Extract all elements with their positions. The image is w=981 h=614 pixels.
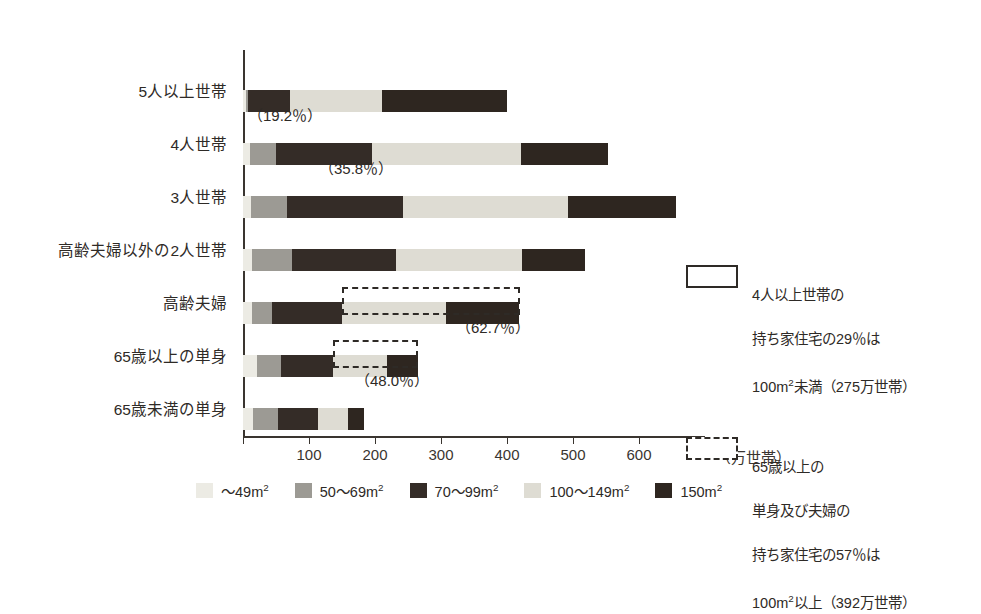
callout-4plus-line3: 100m2未満（275万世帯） <box>752 372 976 398</box>
bar-segment <box>382 90 507 112</box>
legend-swatch-icon-under49 <box>196 483 213 498</box>
bar-segment <box>396 249 521 271</box>
legend-label-100to149-unit: m <box>612 484 624 500</box>
x-axis-line <box>243 436 705 438</box>
category-label-4person: 4人世帯 <box>170 132 227 154</box>
x-tick-label-100: 100 <box>296 446 321 463</box>
solid-box-icon <box>686 265 738 288</box>
legend-label-50to69-main: 50～69 <box>320 484 366 500</box>
legend-label-50to69: 50～69m2 <box>320 480 384 501</box>
bar-note-elderly-couple: （62.7％） <box>456 316 530 337</box>
legend-label-150-sup: 2 <box>717 482 722 493</box>
bar-note-5plus: （19.2％） <box>248 104 322 125</box>
legend-swatch-icon-150 <box>655 483 672 498</box>
bar-segment <box>250 143 276 165</box>
legend-label-70to99: 70～99m2 <box>435 480 499 501</box>
legend-label-150-unit: m <box>705 483 717 499</box>
bar-segment <box>253 408 278 430</box>
category-axis-labels: 5人以上世帯 4人世帯 3人世帯 高齢夫婦以外の2人世帯 高齢夫婦 65歳以上の… <box>0 0 235 538</box>
bar-segment <box>243 408 253 430</box>
bar-segment <box>521 143 609 165</box>
bar-segment <box>252 249 292 271</box>
bar-segment <box>342 302 446 324</box>
bar-segment <box>243 355 257 377</box>
legend-item-70to99: 70～99m2 <box>410 480 499 501</box>
bar-row <box>243 249 704 271</box>
callout-4plus-text: 4人以上世帯の 持ち家住宅の29％は 100m2未満（275万世帯） <box>752 262 976 420</box>
legend-label-100to149: 100～149m2 <box>549 480 629 501</box>
category-label-single-under65: 65歳未満の単身 <box>114 397 227 419</box>
legend-item-under49: ～49m2 <box>196 480 269 501</box>
legend-label-under49-unit: m <box>251 484 263 500</box>
x-tick-label-400: 400 <box>494 446 519 463</box>
callout-elderly-line3: 持ち家住宅の57％は <box>752 544 976 566</box>
x-tick-label-300: 300 <box>428 446 453 463</box>
category-label-5plus: 5人以上世帯 <box>138 79 227 101</box>
callout-elderly-line2: 単身及び夫婦の <box>752 500 976 522</box>
callout-elderly-line4-m: m <box>776 595 788 611</box>
bar-segment <box>403 196 568 218</box>
bar-segment <box>372 143 521 165</box>
legend-label-150: 150m2 <box>680 482 722 500</box>
legend-swatch-icon-50to69 <box>295 483 312 498</box>
category-label-3person: 3人世帯 <box>170 185 227 207</box>
legend-label-70to99-main: 70～99 <box>435 484 481 500</box>
callout-4plus-line3-b: 未満（275万世帯） <box>794 379 916 395</box>
legend-swatch-icon-70to99 <box>410 483 427 498</box>
bar-segment <box>292 249 397 271</box>
bar-segment <box>522 249 586 271</box>
bar-segment <box>318 408 348 430</box>
bar-segment <box>243 143 250 165</box>
bar-row <box>243 408 704 430</box>
x-tick-0 <box>243 438 244 444</box>
legend-label-70to99-sup: 2 <box>493 482 498 493</box>
bar-note-single-65plus: （48.0％） <box>355 369 429 390</box>
legend-label-under49: ～49m2 <box>221 480 269 501</box>
legend-item-100to149: 100～149m2 <box>524 480 629 501</box>
x-tick-200 <box>375 438 376 444</box>
dashed-box-icon <box>686 437 738 460</box>
legend: ～49m2 50～69m2 70～99m2 100～149m2 150m2 <box>196 480 722 501</box>
x-tick-300 <box>441 438 442 444</box>
bar-segment <box>243 302 252 324</box>
bar-segment <box>278 408 318 430</box>
bar-segment <box>287 196 403 218</box>
legend-label-150-main: 150 <box>680 483 704 499</box>
legend-label-50to69-unit: m <box>366 484 378 500</box>
legend-swatch-icon-100to149 <box>524 483 541 498</box>
callout-4plus-line1: 4人以上世帯の <box>752 284 976 306</box>
bar-segment <box>272 302 342 324</box>
plot-area: 100 200 300 400 500 600 700 （19.2％） （35.… <box>243 50 713 438</box>
callout-elderly-line4-a: 100 <box>752 595 776 611</box>
legend-label-100to149-main: 100～149 <box>549 484 611 500</box>
bar-row <box>243 196 704 218</box>
bar-segment <box>243 249 252 271</box>
bar-note-4person: （35.8％） <box>319 157 393 178</box>
category-label-single-65plus: 65歳以上の単身 <box>114 344 227 366</box>
x-tick-label-600: 600 <box>626 446 651 463</box>
x-tick-600 <box>639 438 640 444</box>
callout-4plus-households: 4人以上世帯の 持ち家住宅の29％は 100m2未満（275万世帯） <box>686 262 976 420</box>
bar-segment <box>568 196 676 218</box>
bar-segment <box>348 408 364 430</box>
callout-elderly-line4-b: 以上（392万世帯） <box>794 595 916 611</box>
legend-item-50to69: 50～69m2 <box>295 480 384 501</box>
bar-segment <box>281 355 333 377</box>
callout-elderly-households: 65歳以上の 単身及び夫婦の 持ち家住宅の57％は 100m2以上（392万世帯… <box>686 434 976 614</box>
callout-4plus-line3-a: 100 <box>752 379 776 395</box>
callout-elderly-line4: 100m2以上（392万世帯） <box>752 588 976 614</box>
legend-label-50to69-sup: 2 <box>378 482 383 493</box>
bar-segment <box>251 196 287 218</box>
callout-elderly-text: 65歳以上の 単身及び夫婦の 持ち家住宅の57％は 100m2以上（392万世帯… <box>752 434 976 614</box>
bar-segment <box>257 355 281 377</box>
legend-label-under49-sup: 2 <box>263 482 268 493</box>
x-tick-500 <box>573 438 574 444</box>
bar-segment <box>252 302 272 324</box>
category-label-elderly-couple: 高齢夫婦 <box>163 291 227 313</box>
callout-elderly-line1: 65歳以上の <box>752 456 976 478</box>
callout-4plus-line2: 持ち家住宅の29％は <box>752 328 976 350</box>
category-label-2person-nonelderly: 高齢夫婦以外の2人世帯 <box>58 238 227 260</box>
legend-label-under49-main: ～49 <box>221 484 251 500</box>
bar-row <box>243 355 704 377</box>
